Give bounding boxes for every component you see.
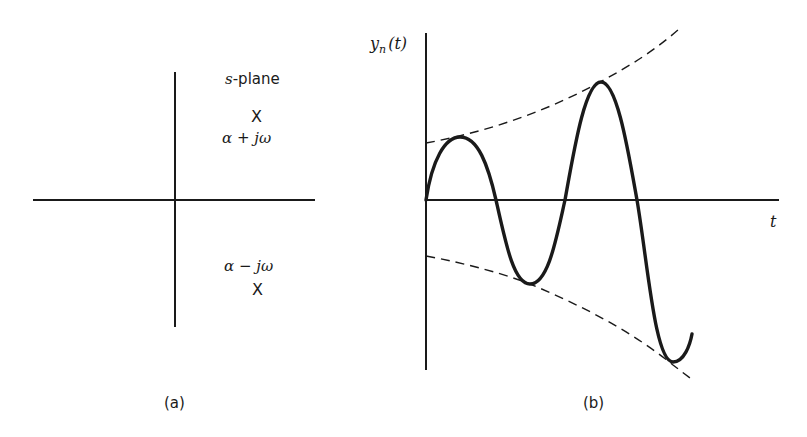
n-subscript: n — [379, 43, 386, 56]
caption-b: (b) — [583, 396, 604, 411]
s-variable: s — [225, 70, 233, 88]
minus-sign: − — [239, 257, 252, 275]
plane-text: -plane — [233, 70, 280, 88]
upper-envelope — [426, 30, 678, 143]
growing-oscillation-curve — [426, 82, 692, 362]
lower-pole-marker: X — [252, 282, 263, 298]
caption-a: (a) — [164, 396, 185, 411]
lower-envelope — [426, 256, 690, 378]
upper-pole-label: α + jω — [222, 131, 271, 146]
alpha-symbol: α — [222, 129, 232, 147]
figure-canvas — [0, 0, 807, 437]
s-plane-axes — [33, 72, 315, 327]
y-symbol: y — [370, 34, 379, 53]
t-axis-label: t — [770, 214, 776, 230]
upper-pole-marker: X — [251, 109, 262, 125]
t-argument: (t) — [388, 34, 407, 53]
alpha-symbol: α — [224, 257, 234, 275]
y-axis-label: yn(t) — [370, 36, 407, 55]
plus-sign: + — [237, 129, 250, 147]
j-omega: jω — [256, 257, 273, 275]
lower-pole-label: α − jω — [224, 259, 273, 274]
j-omega: jω — [254, 129, 271, 147]
s-plane-label: s-plane — [225, 72, 280, 87]
